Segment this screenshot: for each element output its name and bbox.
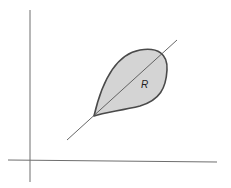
x-axis bbox=[8, 160, 217, 162]
region-label: R bbox=[141, 79, 148, 90]
diagram-canvas: R bbox=[0, 0, 231, 188]
